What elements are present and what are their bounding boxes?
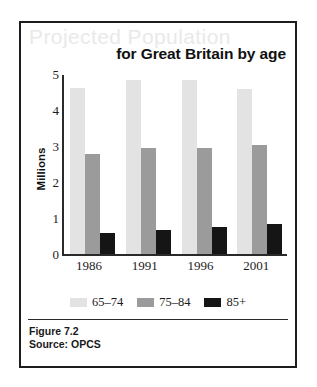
legend-item: 75–84 <box>137 295 190 310</box>
y-tick-label: 3 <box>39 139 59 155</box>
y-axis-ticks: 543210 <box>39 75 59 255</box>
legend-item: 85+ <box>204 295 246 310</box>
chart-title-main: for Great Britain by age <box>116 45 286 63</box>
x-axis-label: 1996 <box>176 258 232 274</box>
x-axis-line <box>62 254 287 256</box>
bar <box>85 154 100 254</box>
bar <box>156 230 171 254</box>
bar <box>267 224 282 254</box>
plot-area: Millions 543210 1986199119962001 <box>21 75 295 290</box>
y-tick-label: 2 <box>39 175 59 191</box>
figure-frame: Projected Population for Great Britain b… <box>19 21 297 368</box>
x-axis-label: 2001 <box>231 258 287 274</box>
legend-label: 65–74 <box>92 295 123 310</box>
bar-group <box>64 75 120 254</box>
y-tick-label: 5 <box>39 67 59 83</box>
bar-group <box>231 75 287 254</box>
bar <box>182 80 197 254</box>
x-axis-labels: 1986199119962001 <box>64 258 287 274</box>
y-tick-label: 4 <box>39 103 59 119</box>
bar <box>212 227 227 254</box>
bar <box>100 233 115 254</box>
bar <box>126 80 141 254</box>
bar <box>141 148 156 254</box>
bar <box>237 89 252 254</box>
legend-label: 75–84 <box>159 295 190 310</box>
figure-source: Source: OPCS <box>29 338 101 351</box>
figure-footer: Figure 7.2 Source: OPCS <box>29 325 101 351</box>
title-block: Projected Population for Great Britain b… <box>21 23 295 75</box>
y-tick-label: 1 <box>39 211 59 227</box>
chart-legend: 65–7475–8485+ <box>21 295 295 310</box>
legend-swatch <box>137 298 154 307</box>
bars-container <box>64 75 287 254</box>
bar <box>252 145 267 254</box>
legend-item: 65–74 <box>70 295 123 310</box>
figure-caption: Figure 7.2 <box>29 325 101 338</box>
legend-swatch <box>70 298 87 307</box>
bar <box>197 148 212 254</box>
bar-group <box>176 75 232 254</box>
legend-label: 85+ <box>226 295 246 310</box>
x-axis-label: 1986 <box>64 258 120 274</box>
x-axis-label: 1991 <box>120 258 176 274</box>
bar-group <box>120 75 176 254</box>
bar <box>70 88 85 254</box>
y-tick-label: 0 <box>39 247 59 263</box>
legend-swatch <box>204 298 221 307</box>
footer-divider <box>28 319 288 320</box>
